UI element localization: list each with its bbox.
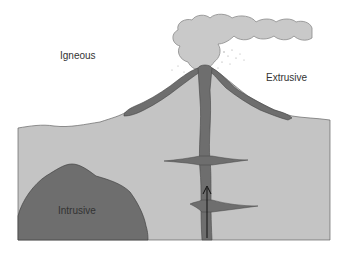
igneous-label: Igneous bbox=[60, 51, 96, 61]
extrusive-label: Extrusive bbox=[266, 73, 307, 83]
igneous-rock-diagram: Igneous Extrusive Intrusive bbox=[0, 0, 348, 255]
intrusive-label: Intrusive bbox=[58, 206, 96, 216]
diagram-canvas bbox=[0, 0, 348, 255]
ash-cloud bbox=[172, 14, 313, 72]
